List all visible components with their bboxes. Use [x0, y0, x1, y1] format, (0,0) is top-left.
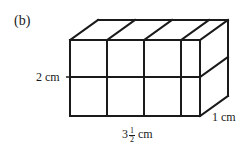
top-diagonal-2: [144, 20, 172, 40]
top-diagonal-1: [107, 20, 135, 40]
width-fraction: 12: [129, 127, 135, 144]
depth-label: 1 cm: [212, 111, 236, 123]
width-unit: cm: [138, 127, 153, 141]
height-label: 2 cm: [36, 71, 60, 83]
top-diagonal-0: [70, 20, 98, 40]
width-fraction-denominator: 2: [129, 136, 135, 144]
width-label: 312cm: [122, 127, 153, 144]
width-whole: 3: [122, 127, 128, 141]
right-row-divider: [200, 57, 228, 77]
part-label: (b): [14, 14, 30, 28]
